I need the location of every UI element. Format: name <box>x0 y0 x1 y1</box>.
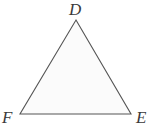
triangle-shape <box>0 0 153 130</box>
triangle-polygon-DEF <box>20 20 131 114</box>
geometry-figure: D F E <box>0 0 153 130</box>
vertex-label-e: E <box>136 109 147 126</box>
vertex-label-d: D <box>69 1 81 18</box>
vertex-label-f: F <box>2 109 13 126</box>
